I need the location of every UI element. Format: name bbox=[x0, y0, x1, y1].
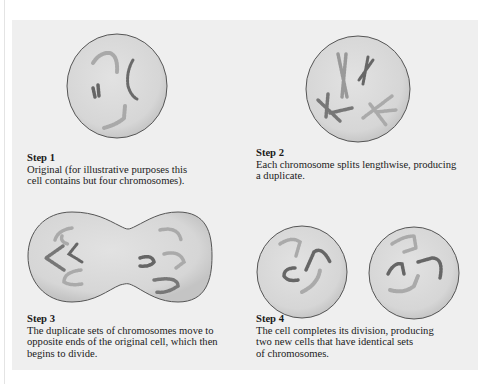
step4-text: The cell completes its division, produci… bbox=[256, 325, 481, 360]
step1-title: Step 1 bbox=[27, 152, 237, 164]
step2-title: Step 2 bbox=[256, 147, 476, 159]
step3-dividing-cell bbox=[28, 212, 212, 302]
step3-text: The duplicate sets of chromosomes move t… bbox=[27, 325, 252, 360]
step1-caption: Step 1 Original (for illustrative purpos… bbox=[27, 152, 237, 187]
step3-title: Step 3 bbox=[27, 313, 252, 325]
step4-caption: Step 4 The cell completes its division, … bbox=[256, 313, 481, 359]
step4-daughter-cell-left bbox=[257, 226, 347, 318]
step2-caption: Step 2 Each chromosome splits lengthwise… bbox=[256, 147, 476, 182]
step1-cell bbox=[67, 34, 167, 138]
step1-text: Original (for illustrative purposes this… bbox=[27, 164, 237, 187]
step4-title: Step 4 bbox=[256, 313, 481, 325]
step4-daughter-cell-right bbox=[369, 227, 459, 319]
step2-cell bbox=[306, 36, 410, 142]
step2-text: Each chromosome splits lengthwise, produ… bbox=[256, 159, 476, 182]
step3-caption: Step 3 The duplicate sets of chromosomes… bbox=[27, 313, 252, 359]
